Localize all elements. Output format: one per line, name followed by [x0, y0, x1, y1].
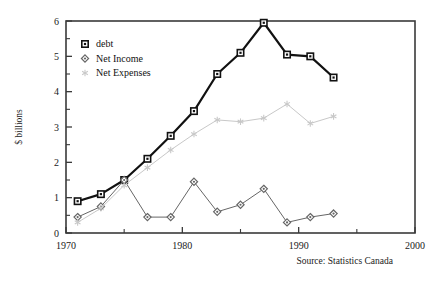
- data-point-marker-core: [332, 76, 334, 78]
- legend-item-net-income[interactable]: Net Income: [81, 53, 143, 64]
- data-point-marker-core: [123, 179, 125, 181]
- data-point-marker-core: [309, 55, 311, 57]
- chart-figure: 0123456 1970198019902000 $ billions debt…: [0, 0, 442, 296]
- data-point-marker-core: [239, 204, 241, 206]
- y-axis-ticks: [66, 21, 72, 233]
- legend-label: debt: [96, 38, 113, 49]
- series-line: [78, 180, 334, 222]
- data-point-marker-core: [77, 200, 79, 202]
- x-axis-tick-labels: 1970198019902000: [56, 240, 425, 251]
- legend-marker-icon-core: [84, 57, 86, 59]
- y-tick-label: 4: [54, 86, 59, 97]
- series-line: [78, 104, 334, 222]
- legend-label: Net Expenses: [96, 67, 151, 78]
- legend-item-debt[interactable]: debt: [82, 38, 114, 49]
- series-net-expenses: [75, 101, 337, 226]
- x-tick-label: 2000: [405, 240, 425, 251]
- y-tick-label: 0: [54, 228, 59, 239]
- y-axis-title: $ billions: [14, 109, 24, 145]
- source-annotation: Source: Statistics Canada: [296, 256, 393, 266]
- y-tick-label: 6: [54, 16, 59, 27]
- y-tick-label: 3: [54, 122, 59, 133]
- x-axis-ticks: [66, 227, 415, 233]
- series-line: [78, 23, 334, 201]
- chart-canvas: 0123456 1970198019902000 $ billions debt…: [0, 0, 442, 296]
- legend-marker-icon-core: [84, 43, 86, 45]
- data-point-marker-core: [216, 211, 218, 213]
- x-tick-label: 1990: [289, 240, 309, 251]
- data-point-marker-core: [146, 216, 148, 218]
- data-point-marker-core: [286, 53, 288, 55]
- data-point-marker-core: [170, 135, 172, 137]
- y-tick-label: 1: [54, 192, 59, 203]
- y-tick-label: 5: [54, 51, 59, 62]
- data-point-marker-core: [146, 158, 148, 160]
- data-point-marker-core: [286, 221, 288, 223]
- x-tick-label: 1980: [172, 240, 192, 251]
- x-tick-label: 1970: [56, 240, 76, 251]
- data-point-marker-core: [263, 22, 265, 24]
- series-net-income: [74, 176, 337, 226]
- data-point-marker-core: [309, 216, 311, 218]
- data-point-marker-core: [332, 212, 334, 214]
- data-point-marker-core: [193, 181, 195, 183]
- data-point-marker-core: [100, 193, 102, 195]
- legend-label: Net Income: [96, 53, 143, 64]
- data-point-marker-core: [193, 110, 195, 112]
- data-point-marker-core: [239, 52, 241, 54]
- series-layer: [74, 20, 337, 226]
- chart-legend: debtNet IncomeNet Expenses: [81, 38, 150, 78]
- data-point-marker-core: [216, 73, 218, 75]
- y-tick-label: 2: [54, 157, 59, 168]
- data-point-marker-core: [77, 216, 79, 218]
- data-point-marker-core: [263, 188, 265, 190]
- data-point-marker-core: [170, 216, 172, 218]
- y-axis-tick-labels: 0123456: [54, 16, 59, 239]
- series-debt: [74, 20, 336, 205]
- legend-item-net-expenses[interactable]: Net Expenses: [82, 67, 151, 78]
